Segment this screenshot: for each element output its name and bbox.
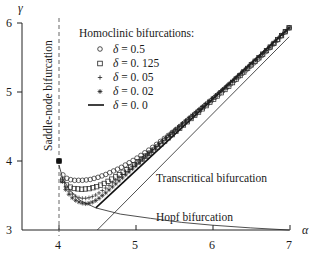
legend-label: δ = 0. 02 [113, 85, 154, 97]
bifurcation-chart: 6 5 4 3 4 5 6 7 γ α Saddle-node bifurcat… [0, 0, 312, 259]
plus-marker-icon [84, 196, 88, 200]
y-tick-label-5: 5 [6, 85, 12, 99]
legend-entry-delta-0.125: δ = 0. 125 [98, 57, 160, 69]
x-tick-label-6: 6 [209, 238, 215, 252]
star-marker-icon [67, 192, 72, 197]
legend-entry-delta-0.5: δ = 0.5 [98, 43, 146, 55]
legend-entry-delta-0.05: δ = 0. 05 [98, 71, 154, 83]
legend-title: Homoclinic bifurcations: [79, 27, 194, 39]
saddle-node-label: Saddle-node bifurcation [42, 40, 54, 151]
hopf-label: Hopf bifurcation [156, 211, 233, 224]
plus-marker-icon [97, 191, 101, 195]
y-tick-label-4: 4 [6, 154, 12, 168]
plus-marker-icon [87, 196, 91, 200]
transcritical-label: Transcritical bifurcation [156, 172, 267, 184]
y-tick-label-3: 3 [6, 223, 12, 237]
legend-label: δ = 0. 0 [113, 99, 148, 111]
y-tick-label-6: 6 [6, 16, 12, 30]
star-marker-icon [100, 193, 105, 198]
plus-marker-icon [100, 188, 104, 192]
legend: Homoclinic bifurcations: δ = 0.5 δ = 0. … [79, 27, 194, 111]
circle-marker-icon [98, 47, 103, 52]
x-axis-label: α [302, 223, 309, 237]
star-marker-icon [97, 196, 102, 201]
legend-label: δ = 0.5 [113, 43, 145, 55]
plus-marker-icon [98, 75, 102, 79]
star-marker-icon [98, 89, 103, 94]
legend-label: δ = 0. 05 [113, 71, 154, 83]
legend-label: δ = 0. 125 [113, 57, 160, 69]
x-tick-label-7: 7 [286, 238, 292, 252]
x-tick-label-4: 4 [55, 238, 61, 252]
y-axis-label: γ [18, 1, 23, 15]
star-marker-icon [80, 201, 85, 206]
x-tick-label-5: 5 [132, 238, 138, 252]
square-marker-icon [98, 61, 103, 66]
saddle-node-start-point [57, 159, 62, 164]
legend-entry-delta-0.02: δ = 0. 02 [98, 85, 154, 97]
star-marker-icon [87, 201, 92, 206]
legend-entry-delta-0.0: δ = 0. 0 [88, 99, 148, 111]
